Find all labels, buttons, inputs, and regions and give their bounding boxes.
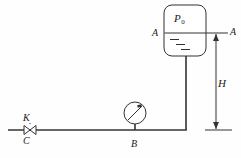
arrow-down-icon [213,122,219,129]
height-dimension-label: H [218,78,226,89]
arrow-up-icon [213,34,219,41]
hydraulics-schematic-figure: P0 A A H K C B [0,0,241,158]
tank-vessel-outline [164,5,206,56]
tank-pressure-symbol: P [174,12,181,24]
figure-drawing-canvas [0,0,241,158]
pressure-gauge-icon [124,102,146,130]
tank-pressure-label: P0 [174,13,184,24]
gauge-point-label-b: B [131,139,137,149]
tank-pressure-subscript: 0 [181,18,185,26]
bowtie-valve-icon [24,123,36,135]
level-label-a-left: A [152,28,158,38]
valve-outlet-label-c: C [23,136,30,146]
level-label-a-right: A [230,27,236,37]
valve-label-k: K [23,113,30,123]
